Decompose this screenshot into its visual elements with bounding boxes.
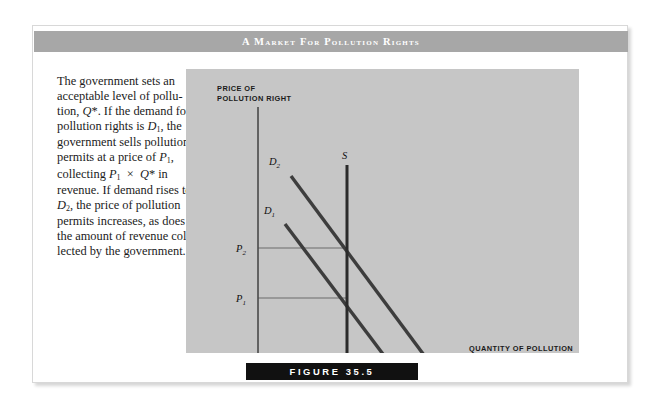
demand-curve-d2-label: D2 — [268, 156, 281, 170]
figure-card: A Market for Pollution Rights The govern… — [32, 25, 628, 383]
figure-page: A Market for Pollution Rights The govern… — [0, 0, 664, 411]
y-tick-p1: P1 — [235, 293, 246, 307]
figure-title: A Market for Pollution Rights — [242, 36, 420, 47]
caption-text: The government sets an acceptable level … — [57, 74, 192, 258]
demand-curve-d1-label: D1 — [263, 205, 275, 219]
market-for-pollution-rights-chart: PRICE OF POLLUTION RIGHT D2 D1 S — [186, 69, 579, 353]
y-axis-label-line1: PRICE OF — [217, 84, 256, 93]
figure-header-bar: A Market for Pollution Rights — [34, 31, 628, 52]
y-tick-p2: P2 — [235, 243, 246, 257]
figure-number-label: FIGURE 35.5 — [290, 366, 375, 377]
chart-panel: PRICE OF POLLUTION RIGHT D2 D1 S — [186, 69, 579, 353]
x-axis-label-line1: QUANTITY OF POLLUTION — [469, 344, 573, 353]
y-axis-label-line2: POLLUTION RIGHT — [217, 94, 292, 103]
figure-caption: The government sets an acceptable level … — [57, 74, 197, 259]
figure-number-tag: FIGURE 35.5 — [246, 363, 418, 380]
supply-curve-s-label: S — [342, 150, 348, 161]
